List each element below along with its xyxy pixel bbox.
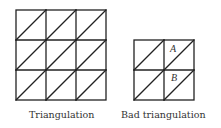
- diagonal: [46, 10, 76, 40]
- diagonal: [46, 40, 76, 70]
- diagonal: [164, 70, 194, 100]
- diagonal: [76, 70, 106, 100]
- triangle-label-a: A: [169, 43, 177, 54]
- diagonal: [16, 10, 46, 40]
- diagonal: [16, 70, 46, 100]
- triangulation-caption: Triangulation: [29, 110, 94, 120]
- triangle-label-b: B: [171, 72, 177, 83]
- triangulation-grid: [16, 10, 106, 100]
- diagonal: [76, 10, 106, 40]
- bad-triangulation-grid: [134, 40, 194, 100]
- diagonal: [134, 40, 164, 70]
- diagonal: [16, 40, 46, 70]
- bad-triangulation-caption: Bad triangulation: [121, 110, 206, 120]
- diagonal: [164, 40, 194, 70]
- diagonal: [76, 40, 106, 70]
- diagonal: [134, 70, 164, 100]
- diagonal: [46, 70, 76, 100]
